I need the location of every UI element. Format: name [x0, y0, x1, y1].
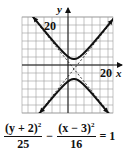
x-tick-label: 20: [100, 66, 112, 80]
numerator-y: (y + 2)2: [4, 122, 42, 137]
denominator-y: 25: [17, 137, 29, 151]
y-axis-label: y: [55, 3, 62, 15]
denominator-x: 16: [70, 137, 82, 151]
y-tick-label: 20: [44, 19, 56, 33]
fraction-x-term: (x − 3)2 16: [57, 122, 95, 151]
hyperbola-graph: y 20 20 x: [0, 0, 139, 118]
equals-one: = 1: [100, 129, 116, 143]
minus-operator: −: [46, 129, 53, 143]
equation: (y + 2)2 25 − (x − 3)2 16 = 1: [4, 118, 137, 154]
fraction-y-term: (y + 2)2 25: [4, 122, 42, 151]
x-axis-label: x: [115, 67, 122, 79]
numerator-x: (x − 3)2: [57, 122, 95, 137]
